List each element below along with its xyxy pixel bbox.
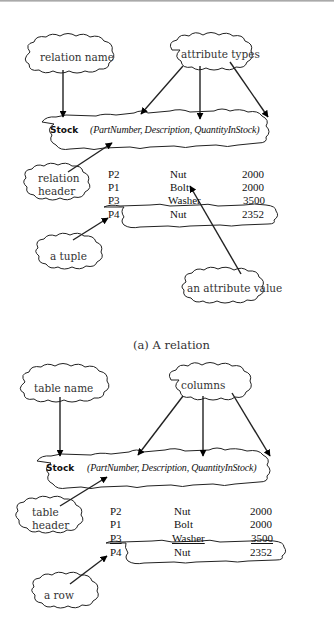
- cell: 2352: [242, 208, 264, 220]
- cell: 3500: [243, 194, 265, 206]
- columns-label: columns: [181, 379, 225, 391]
- cell: Nut: [170, 168, 187, 180]
- table-name: Stock: [46, 463, 74, 473]
- cell: Nut: [174, 505, 191, 517]
- cell: P2: [110, 505, 122, 517]
- cell: Bolt: [174, 518, 193, 530]
- cell: Washer: [168, 194, 201, 206]
- cell: P4: [108, 208, 120, 220]
- relation-name: Stock: [50, 125, 78, 135]
- cell: Washer: [172, 532, 205, 544]
- cell: P3: [108, 194, 120, 206]
- relation-attributes: (PartNumber, Description, QuantityInStoc…: [90, 124, 259, 135]
- tuple-label: a tuple: [50, 250, 87, 262]
- attribute-types-label: attribute types: [181, 48, 260, 60]
- relation-header-label-1: relation: [38, 172, 80, 184]
- cell: P1: [108, 181, 120, 193]
- cell: 2000: [242, 168, 264, 180]
- row-label: a row: [44, 589, 74, 601]
- figure-caption-a: (a) A relation: [133, 338, 210, 352]
- cell: Nut: [170, 208, 187, 220]
- table-name-label: table name: [34, 382, 93, 394]
- table-header-label-2: header: [32, 519, 69, 531]
- cell: P2: [108, 168, 120, 180]
- cell: 2352: [250, 546, 272, 558]
- cell: 2000: [242, 181, 264, 193]
- cell: 2000: [250, 518, 272, 530]
- cell: 3500: [251, 532, 273, 544]
- table-attributes: (PartNumber, Description, QuantityInStoc…: [87, 462, 256, 473]
- attribute-value-label: an attribute value: [187, 282, 282, 294]
- cell: 2000: [250, 505, 272, 517]
- cell: Bolt: [170, 181, 189, 193]
- cell: P3: [110, 532, 122, 544]
- cell: P1: [110, 518, 122, 530]
- relation-name-label: relation name: [40, 51, 114, 63]
- cell: P4: [110, 546, 122, 558]
- table-header-label-1: table: [32, 506, 59, 518]
- cell: Nut: [174, 546, 191, 558]
- relation-header-label-2: header: [38, 185, 75, 197]
